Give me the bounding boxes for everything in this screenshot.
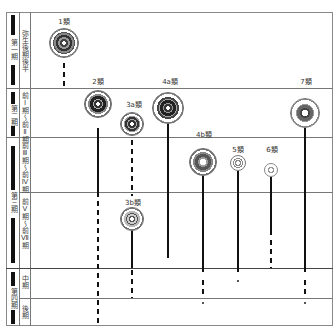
period-bar-1-top [11, 15, 15, 35]
type-label-3b: 3b類 [125, 197, 141, 207]
period-bar-3-top [11, 146, 15, 190]
range-line-type-5 [237, 171, 239, 272]
range-line-type-6-dashed [270, 240, 272, 268]
range-line-type-2 [97, 128, 99, 192]
chronology-table-frame [6, 12, 333, 326]
period-bar-3-bottom [11, 218, 15, 263]
subperiod-label-1: 弥生後期後半 [20, 30, 29, 72]
subperiod-label-6: 後期 [20, 305, 29, 319]
whorl-type-4a [152, 92, 184, 124]
whorl-type-5 [230, 155, 246, 171]
range-line-type-4a [167, 124, 169, 258]
subperiod-label-5: 中期 [20, 275, 29, 289]
column-divider-subperiod [30, 12, 31, 326]
type-label-2: 2類 [92, 76, 103, 86]
subperiod-label-4: 前Ⅴ期〜前Ⅶ期 [20, 198, 29, 249]
period-label-3: 第三期 [9, 192, 17, 213]
range-end-type-4b [202, 302, 204, 304]
range-line-type-1 [63, 63, 65, 88]
row-divider-1 [6, 88, 333, 89]
period-bar-4-bottom [11, 310, 15, 324]
whorl-type-2 [84, 90, 112, 118]
whorl-type-3a [120, 112, 144, 136]
type-label-7: 7類 [300, 76, 311, 86]
period-bar-2-top [11, 92, 15, 104]
type-label-3a: 3a類 [126, 99, 142, 109]
row-divider-3 [19, 192, 333, 193]
period-label-1: 第一期 [9, 39, 17, 60]
subperiod-label-3: 前Ⅲ期〜前Ⅳ期 [20, 142, 29, 193]
row-divider-2-left [6, 137, 19, 138]
period-bar-1-bottom [11, 65, 15, 85]
range-line-type-4b [202, 176, 204, 272]
range-line-type-7 [304, 128, 306, 272]
whorl-type-1 [49, 28, 79, 58]
row-divider-2 [19, 137, 333, 138]
type-label-1: 1類 [58, 16, 69, 26]
range-line-type-3b [131, 231, 133, 268]
range-line-type-4b-dashed [202, 280, 204, 298]
whorl-type-3b [120, 207, 144, 231]
range-line-type-7-dashed [304, 280, 306, 298]
type-label-4b: 4b類 [196, 129, 212, 139]
whorl-type-6 [264, 163, 278, 177]
period-bar-2-bottom [11, 126, 15, 136]
whorl-type-4b [189, 148, 217, 176]
whorl-type-7 [290, 98, 320, 128]
type-label-6: 6類 [266, 144, 277, 154]
range-line-type-3a [131, 140, 133, 196]
period-label-4: 第四期 [9, 288, 17, 309]
range-line-type-6 [270, 177, 272, 235]
range-line-type-2-dashed [97, 192, 99, 327]
type-label-5: 5類 [232, 144, 243, 154]
row-divider-4 [6, 268, 333, 269]
range-end-type-5 [237, 280, 239, 282]
period-label-2: 第二期 [9, 105, 17, 126]
period-bar-4-top [11, 272, 15, 286]
type-label-4a: 4a類 [162, 76, 178, 86]
row-divider-5 [19, 298, 333, 299]
range-line-type-3b-dashed [131, 270, 133, 298]
subperiod-label-2: 前Ⅰ期〜前Ⅱ期 [20, 92, 29, 143]
range-end-type-7 [304, 302, 306, 304]
